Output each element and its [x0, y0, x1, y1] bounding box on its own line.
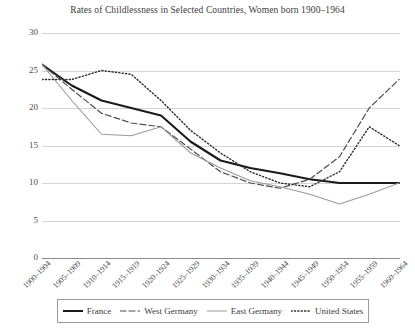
series-layer [42, 33, 400, 258]
legend-label: West Germany [144, 306, 198, 316]
plot-area [42, 33, 400, 258]
y-axis-tick-label: 25 [6, 66, 38, 75]
y-axis-tick-label: 15 [6, 141, 38, 150]
x-axis-tick-label: 1945–1949 [289, 259, 320, 290]
legend-swatch-icon [291, 306, 311, 316]
legend-swatch-icon [63, 306, 83, 316]
series-line-united-states [42, 71, 399, 187]
x-axis-tick-label: 1925–1929 [170, 259, 201, 290]
y-axis-tick-label: 0 [6, 253, 38, 262]
x-axis-tick-label: 1905–1909 [51, 259, 82, 290]
legend-label: East Germany [231, 306, 282, 316]
legend-label: France [87, 306, 112, 316]
x-axis-tick-label: 1910–1914 [81, 259, 112, 290]
x-axis-tick-label: 1900–1904 [21, 259, 52, 290]
legend-item-united-states[interactable]: United States [291, 306, 363, 316]
x-axis-tick-label: 1940–1944 [259, 259, 290, 290]
legend-item-france[interactable]: France [63, 306, 112, 316]
x-axis-tick-label: 1960–1964 [378, 259, 409, 290]
y-axis-tick-label: 20 [6, 103, 38, 112]
x-axis-tick-label: 1930–1934 [200, 259, 231, 290]
x-axis-tick-label: 1955–1959 [348, 259, 379, 290]
chart-legend: FranceWest GermanyEast GermanyUnited Sta… [57, 299, 369, 323]
y-axis-tick-label: 5 [6, 216, 38, 225]
series-line-france [42, 65, 399, 184]
childlessness-line-chart: Rates of Childlessness in Selected Count… [0, 0, 415, 332]
legend-item-east-germany[interactable]: East Germany [207, 306, 282, 316]
legend-swatch-icon [207, 306, 227, 316]
x-axis-tick-label: 1935–1939 [229, 259, 260, 290]
x-axis-tick-label: 1915–1919 [110, 259, 141, 290]
legend-label: United States [315, 306, 363, 316]
y-axis-tick-label: 10 [6, 178, 38, 187]
series-line-west-germany [42, 65, 399, 189]
x-axis-tick-label: 1920–1924 [140, 259, 171, 290]
y-axis: 051015202530 [0, 33, 38, 258]
x-axis-tick-label: 1950–1954 [319, 259, 350, 290]
chart-title: Rates of Childlessness in Selected Count… [0, 5, 415, 15]
y-axis-tick-label: 30 [6, 28, 38, 37]
legend-item-west-germany[interactable]: West Germany [120, 306, 198, 316]
legend-swatch-icon [120, 306, 140, 316]
